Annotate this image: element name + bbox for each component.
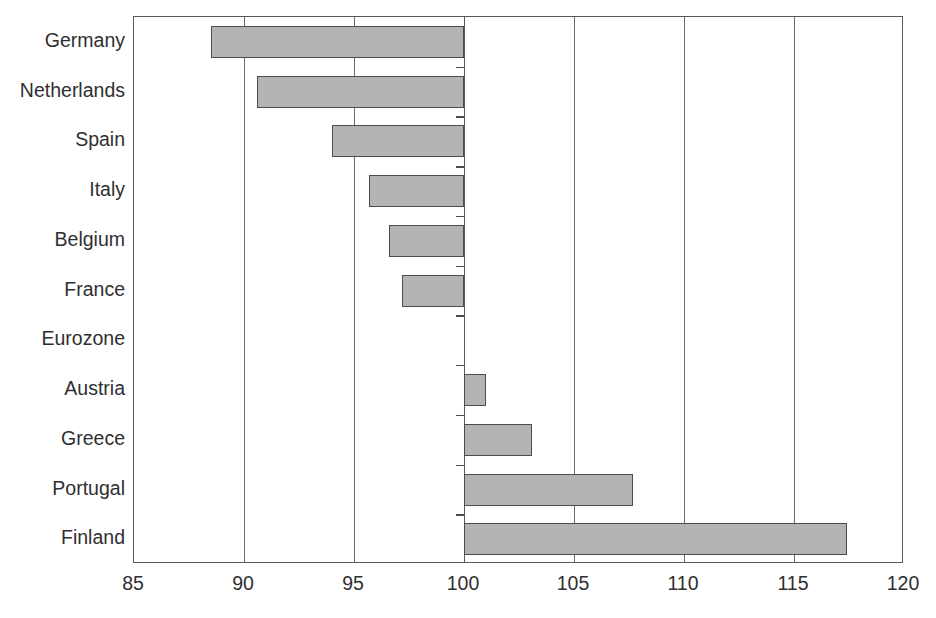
baseline-tick xyxy=(456,365,464,366)
baseline-tick xyxy=(456,266,464,267)
x-tick-label-110: 110 xyxy=(667,572,698,595)
bar-row xyxy=(134,67,902,117)
bar-germany xyxy=(211,26,464,58)
baseline-tick xyxy=(456,67,464,68)
bar-finland xyxy=(464,523,847,555)
x-tick-label-120: 120 xyxy=(887,572,920,595)
y-label-belgium: Belgium xyxy=(55,215,125,265)
bar-belgium xyxy=(389,225,464,257)
bar-row xyxy=(134,17,902,67)
x-tick-label-105: 105 xyxy=(557,572,590,595)
bar-row xyxy=(134,266,902,316)
y-label-eurozone: Eurozone xyxy=(42,314,125,364)
bar-row xyxy=(134,415,902,465)
bar-row xyxy=(134,365,902,415)
baseline-tick xyxy=(456,116,464,117)
x-axis-tick-labels: 859095100105110115120 xyxy=(0,572,936,612)
x-tick-label-85: 85 xyxy=(122,572,144,595)
bar-chart: GermanyNetherlandsSpainItalyBelgiumFranc… xyxy=(0,0,936,618)
y-axis-category-labels: GermanyNetherlandsSpainItalyBelgiumFranc… xyxy=(0,16,125,563)
y-label-austria: Austria xyxy=(64,364,125,414)
bar-row xyxy=(134,514,902,564)
bar-greece xyxy=(464,424,532,456)
bar-row xyxy=(134,315,902,365)
baseline-tick xyxy=(456,216,464,217)
bar-row xyxy=(134,216,902,266)
y-label-netherlands: Netherlands xyxy=(20,66,125,116)
y-label-finland: Finland xyxy=(61,513,125,563)
x-tick-label-90: 90 xyxy=(232,572,254,595)
y-label-germany: Germany xyxy=(45,16,125,66)
bar-netherlands xyxy=(257,76,464,108)
x-tick-label-100: 100 xyxy=(447,572,480,595)
bar-row xyxy=(134,465,902,515)
y-label-france: France xyxy=(64,265,125,315)
y-label-italy: Italy xyxy=(89,165,125,215)
y-label-portugal: Portugal xyxy=(52,464,125,514)
bar-spain xyxy=(332,125,464,157)
baseline-tick xyxy=(456,166,464,167)
bar-france xyxy=(402,275,464,307)
baseline-tick xyxy=(456,514,464,515)
bar-austria xyxy=(464,374,486,406)
y-label-spain: Spain xyxy=(75,115,125,165)
bar-row xyxy=(134,166,902,216)
y-label-greece: Greece xyxy=(61,414,125,464)
bar-portugal xyxy=(464,474,633,506)
bar-italy xyxy=(369,175,464,207)
bar-row xyxy=(134,116,902,166)
plot-area xyxy=(133,16,903,563)
x-tick-label-95: 95 xyxy=(342,572,364,595)
x-tick-label-115: 115 xyxy=(777,572,808,595)
baseline-tick xyxy=(456,415,464,416)
baseline-tick xyxy=(456,315,464,316)
baseline-tick xyxy=(456,465,464,466)
